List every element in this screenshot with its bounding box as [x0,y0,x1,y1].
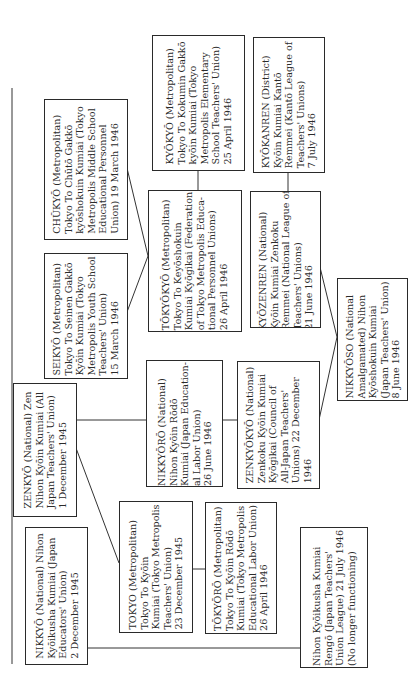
box-kyokanren: KYŌKANREN (District) Kyōin Kumiai Kantō … [253,37,325,173]
text-line: 2 December 1945 [68,533,80,658]
box-tokyoro-text: TŌKYŌRŌ (Metropolitan) Tokyo To Kyōin Rō… [212,505,270,631]
box-tokyo-text: TOKYO (Metropolitan) Tokyo To Kyōin Kumi… [127,504,185,629]
box-nikkyoso: NIKKYŌSO (National Amalgamated) Nihon Ky… [337,278,408,401]
text-line: Educational Labor Union) [247,505,259,631]
connector-seikyo-tokyokyo [127,256,148,312]
text-line: Metropolis Middle School [86,106,98,234]
text-line: Remmei (National League of [280,191,292,328]
text-line: kyōin Kumiai (Tokyo [187,42,199,165]
text-line: Remmei (Kantō League of [283,42,295,169]
text-line: NIKKYŌ (National) Nihon [33,533,45,658]
connector-chukyo-tokyokyo [127,168,148,256]
text-line: kyōshokuin Kumiai (Tokyo [74,106,86,234]
text-line: (Japan Teachers' Union) [378,281,390,398]
text-line: 21 June 1946 [303,191,315,328]
text-line: ZENKYŌKYŌ (National) [244,367,256,484]
text-line: ZENKYŌ (National) Zen [22,391,34,508]
text-line: Tokyo To Kyōin [139,504,151,629]
text-line: Rengō (Japan Teachers' [322,529,334,665]
text-line: School Teachers' Union) [210,42,222,165]
text-line: Union League) 21 July 1946 [334,529,346,665]
text-line: al Labor Union) [190,361,202,485]
box-kyokyo-text: KYŌKYŌ (Metropolitan) Tokyo To Kokumin G… [164,42,234,165]
text-line: Amalgamated) Nihon [355,281,367,398]
box-tokyokyo: TŌKYŌKYŌ (Metropolitan) Tokyo To Keyōsho… [148,190,242,332]
text-line: 15 March 1946 [109,256,121,375]
text-line: Nihon Kyōikusha Kumiai [311,529,323,665]
union-lineage-diagram: CHŪKYŌ (Metropolitan) Tokyo To Chūtō Gak… [0,0,418,697]
text-line: Kyōin Kumiai (Tokyo [74,256,86,375]
text-line: KYŌKANREN (District) [260,42,272,169]
text-line: 26 April 1946 [218,192,230,330]
box-seikyo-text: SEIKYŌ (Metropolitan) Tokyo To Seinen Ga… [51,256,121,375]
text-line: Nihon Kyōin Kumiai (All [33,391,45,508]
text-line: Tokyo To Keyōshokuin [172,192,184,330]
text-line: Kyōgikai (Council of [267,367,279,484]
text-line: Metropolis Youth School [86,256,98,375]
text-line: Kumiai (Japan Education- [179,361,191,485]
box-nikkyo: NIKKYŌ (National) Nihon Kyōikusha Kumiai… [25,527,88,665]
text-line: Teachers' Union) [98,256,110,375]
text-line: KYŌZENREN (National) [257,191,269,328]
text-line: 1946 [302,367,314,484]
text-line: SEIKYŌ (Metropolitan) [51,256,63,375]
text-line: tional Personnel Unions) [207,192,219,330]
box-rengo-text: Nihon Kyōikusha Kumiai Rengō (Japan Teac… [311,529,357,665]
text-line: Educators' Union) [57,533,69,658]
text-line: (No longer functioning) [346,529,358,665]
text-line: Educational Personnel [98,106,110,234]
text-line: TŌKYŌRŌ (Metropolitan) [212,505,224,631]
text-line: 8 June 1946 [390,281,402,398]
text-line: 23 December 1945 [173,504,185,629]
box-zenkyokyo-text: ZENKYŌKYŌ (National) Zenkoku Kyōin Kumia… [244,367,314,484]
text-line: Teachers' Unions) [295,42,307,169]
box-chukyo: CHŪKYŌ (Metropolitan) Tokyo To Chūtō Gak… [44,99,128,240]
box-kyokyo: KYŌKYŌ (Metropolitan) Tokyo To Kokumin G… [152,35,245,171]
text-line: Metropolis Elementary [199,42,211,165]
text-line: Nihon Kyōin Rōdō [167,361,179,485]
box-tokyo: TOKYO (Metropolitan) Tokyo To Kyōin Kumi… [119,501,193,633]
text-line: Teachers' Union) [162,504,174,629]
text-line: 1 December 1945 [57,391,69,508]
box-tokyokyo-text: TŌKYŌKYŌ (Metropolitan) Tokyo To Keyōsho… [160,192,230,330]
box-tokyoro: TŌKYŌRŌ (Metropolitan) Tokyo To Kyōin Rō… [205,502,277,634]
box-nikkyoro-text: NIKKYŌRŌ (National) Nihon Kyōin Rōdō Kum… [156,361,214,485]
connector-kyozenren-nikkyoso [319,263,337,337]
box-nikkyoso-text: NIKKYŌSO (National Amalgamated) Nihon Ky… [344,281,402,398]
connector-zenkyokyo-nikkyoso [319,337,337,420]
text-line: Kyōin Kumiai Zenkoku [268,191,280,328]
text-line: Zenkoku Kyōin Kumiai [255,367,267,484]
text-line: Tokyo To Kokumin Gakkō [175,42,187,165]
text-line: Tokyo To Seinen Gakkō [63,256,75,375]
text-line: Tokyo To Kyōin Rōdō [224,505,236,631]
text-line: TŌKYŌKYŌ (Metropolitan) [160,192,172,330]
text-line: Tokyo To Chūtō Gakkō [63,106,75,234]
text-line: Kumiai Kyōgikai (Federation [183,192,195,330]
text-line: Union) 19 March 1946 [109,106,121,234]
text-line: Kyōin Kumiai Kantō [272,42,284,169]
text-line: Teachers' Unions) [291,191,303,328]
box-nikkyo-text: NIKKYŌ (National) Nihon Kyōikusha Kumiai… [33,533,79,658]
text-line: 26 April 1946 [258,505,270,631]
text-line: Kumiai (Tokyo Metropolis [150,504,162,629]
text-line: CHŪKYŌ (Metropolitan) [51,106,63,234]
box-kyozenren-text: KYŌZENREN (National) Kyōin Kumiai Zenkok… [257,191,315,328]
text-line: Japan Teachers' Union) [45,391,57,508]
box-kyozenren: KYŌZENREN (National) Kyōin Kumiai Zenkok… [250,191,321,328]
box-zenkyo: ZENKYŌ (National) Zen Nihon Kyōin Kumiai… [13,383,77,517]
text-line: All-Japan Teachers' [279,367,291,484]
box-rengo: Nihon Kyōikusha Kumiai Rengō (Japan Teac… [300,527,368,668]
text-line: NIKKYŌRŌ (National) [156,361,168,485]
text-line: Unions) 22 December [290,367,302,484]
text-line: Kyōshokuin Kumiai [367,281,379,398]
box-kyokanren-text: KYŌKANREN (District) Kyōin Kumiai Kantō … [260,42,318,169]
text-line: TOKYO (Metropolitan) [127,504,139,629]
text-line: of Tokyo Metropolis Educa- [195,192,207,330]
box-zenkyo-text: ZENKYŌ (National) Zen Nihon Kyōin Kumiai… [22,391,68,508]
box-chukyo-text: CHŪKYŌ (Metropolitan) Tokyo To Chūtō Gak… [51,106,121,234]
text-line: KYŌKYŌ (Metropolitan) [164,42,176,165]
text-line: 25 April 1946 [222,42,234,165]
text-line: Kumiai (Tokyo Metropolis [235,505,247,631]
box-zenkyokyo: ZENKYŌKYŌ (National) Zenkoku Kyōin Kumia… [237,361,320,489]
text-line: NIKKYŌSO (National [344,281,356,398]
